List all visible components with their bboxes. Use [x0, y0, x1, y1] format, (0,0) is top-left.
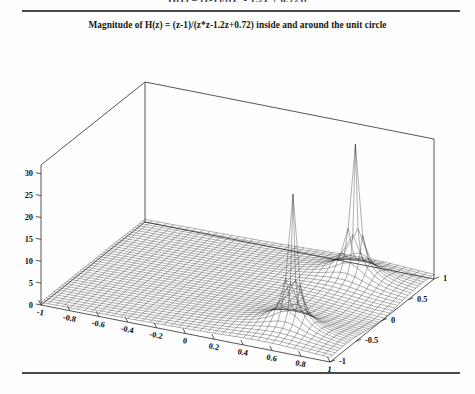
- horizontal-rule-top: [22, 10, 460, 12]
- figure-title: Magnitude of H(z) = (z-1)/(z*z-1.2z+0.72…: [0, 20, 475, 30]
- x-tick-label: -0.6: [91, 318, 106, 329]
- x-tick-label: 0.8: [295, 358, 307, 369]
- z-tick-label: 0: [29, 301, 33, 310]
- x-tick-label: -0.4: [120, 324, 136, 336]
- y-tick-label: -0.5: [365, 336, 378, 345]
- y-tick-label: 0.5: [417, 295, 427, 304]
- horizontal-rule-bottom: [22, 372, 460, 374]
- x-tick-label: -1: [36, 307, 45, 317]
- z-tick-label: 25: [25, 191, 33, 200]
- y-tick-label: 1: [443, 274, 447, 283]
- z-tick-label: 20: [25, 213, 33, 222]
- x-tick-label: -0.8: [62, 313, 77, 324]
- x-tick-label: 0.2: [208, 341, 220, 352]
- z-tick-label: 30: [25, 169, 33, 178]
- y-tick-label: 0: [391, 316, 395, 325]
- x-tick-label: 1: [327, 365, 333, 372]
- x-tick-label: 0.6: [266, 353, 278, 364]
- z-tick-label: 5: [29, 279, 33, 288]
- clipped-equation-text: H(z) = (z-1)/[(z² - 1.2z + 0.72)]: [0, 0, 475, 2]
- x-tick-label: -0.2: [149, 330, 164, 341]
- x-tick-label: 0: [182, 336, 188, 346]
- z-tick-label: 10: [25, 257, 33, 266]
- surface-plot-3d: 051015202530-1-0.8-0.6-0.4-0.200.20.40.6…: [0, 32, 475, 372]
- figure-page: H(z) = (z-1)/[(z² - 1.2z + 0.72)] Magnit…: [0, 0, 475, 394]
- plot-svg: 051015202530-1-0.8-0.6-0.4-0.200.20.40.6…: [0, 32, 475, 372]
- z-tick-label: 15: [25, 235, 33, 244]
- y-tick-label: -1: [339, 357, 346, 366]
- x-tick-label: 0.4: [237, 347, 250, 358]
